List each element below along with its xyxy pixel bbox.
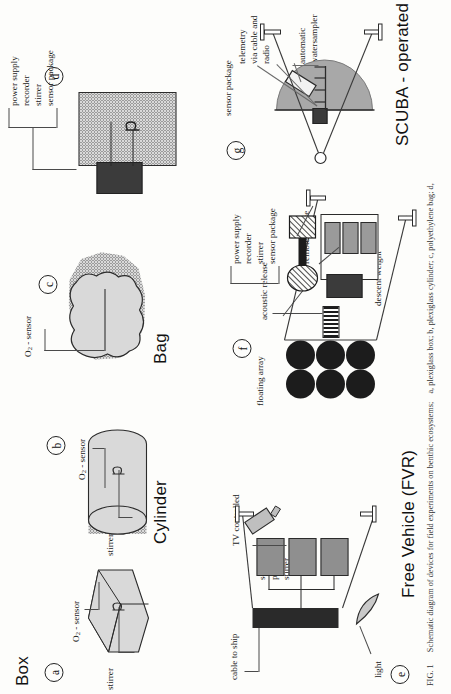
heading-free-vehicle: Free Vehicle (FVR) <box>398 450 418 598</box>
figure-caption-text1: Schematic diagram of devices for field e… <box>425 402 434 652</box>
floating-array-f <box>284 338 376 400</box>
leader-a-sensor-v <box>84 609 98 610</box>
chamber-f-1 <box>324 222 340 254</box>
light-e <box>350 582 384 628</box>
label-f-acoustic-release: acoustic release <box>258 262 269 320</box>
leader-c-sensor-h <box>44 329 45 351</box>
leader-c-sensor-v2 <box>44 350 104 351</box>
leader-b-sensor-v <box>92 448 104 449</box>
figure-canvas: Box a stirrer O2 - sensor Cylinder b sti… <box>0 0 451 694</box>
panel-tag-a: a <box>44 663 63 682</box>
figure-caption-text2: a, plexiglass box; b, plexiglass cylinde… <box>425 183 434 393</box>
label-a-stirrer: stirrer <box>104 668 115 690</box>
instrument-block-d <box>96 162 142 194</box>
chamber-e-1 <box>256 538 284 576</box>
leader-f-bracket-bot <box>278 266 279 284</box>
leader-b-sensor-h <box>104 448 105 488</box>
stirrer-glyph-d <box>122 114 144 136</box>
leader-d-bracket-top <box>8 108 9 128</box>
label-f-power-supply: power supply <box>230 214 241 264</box>
tv-camera-e <box>240 490 284 534</box>
panel-tag-b: b <box>46 436 65 455</box>
stirrer-glyph-a <box>110 594 128 614</box>
manifold-e-feed <box>300 590 301 608</box>
heading-bag: Bag <box>150 333 170 364</box>
figure-caption-line1: FIG. 1 Schematic diagram of devices for … <box>424 183 436 686</box>
label-a-o2-sensor: O2 - sensor <box>70 601 81 642</box>
leader-b-stirrer-h <box>118 504 119 518</box>
label-d-recorder: recorder <box>20 75 31 106</box>
leader-a-stirrer-v <box>118 652 134 653</box>
chamber-f-3 <box>360 222 376 254</box>
leader-e-sensor <box>252 545 286 546</box>
panel-tag-e: e <box>390 665 409 684</box>
heading-cylinder: Cylinder <box>150 480 170 544</box>
label-f-stirrer: stirrer <box>254 242 265 264</box>
leader-b-stirrer-v <box>118 517 132 518</box>
leader-d-stem <box>32 128 33 170</box>
chamber-e-3 <box>320 538 348 576</box>
chamber-f-2 <box>342 222 358 254</box>
label-e-cable-to-ship: cable to ship <box>228 634 239 680</box>
label-e-light: light <box>372 661 383 678</box>
label-g-sensor-package: sensor package <box>222 60 233 116</box>
figure-number: FIG. 1 <box>425 664 434 686</box>
panel-tag-c: c <box>38 275 57 294</box>
leader-d-bracket-bot <box>56 108 57 128</box>
manifold-e-h2 <box>300 576 301 590</box>
diagram-cylinder-b <box>84 426 150 534</box>
leader-a-sensor-h <box>98 582 99 610</box>
stirrer-glyph-b <box>110 458 128 478</box>
label-d-power-supply: power supply <box>8 56 19 106</box>
label-c-o2-sensor: O2 - sensor <box>22 316 33 357</box>
leader-f-bracket-v <box>230 283 278 284</box>
power-block-f <box>326 274 362 298</box>
panel-tag-f: f <box>232 339 251 358</box>
label-d-sensor-package: sensor package <box>44 50 55 106</box>
label-f-recorder: recorder <box>242 233 253 264</box>
frame-g <box>252 14 400 164</box>
label-g-telemetry: telemetry <box>236 29 247 64</box>
leader-f-bracket-top <box>230 266 231 284</box>
manifold-e-h3 <box>333 576 334 590</box>
heading-box: Box <box>12 656 32 686</box>
sensor-probe-c <box>104 289 105 351</box>
label-f-floating-array: floating array <box>254 356 265 406</box>
label-b-stirrer: stirrer <box>104 534 115 556</box>
chamber-e-2 <box>288 538 316 576</box>
panel-tag-g: g <box>226 141 245 160</box>
leader-e-cable-v <box>244 671 258 672</box>
leader-d-stem-v <box>32 169 76 170</box>
label-d-stirrer: stirrer <box>32 84 43 106</box>
leader-e-cable <box>258 628 259 672</box>
leader-a-stirrer-h <box>118 637 119 653</box>
probe-d-1 <box>110 122 111 166</box>
manifold-e-h1 <box>268 576 269 590</box>
label-f-sensor-package: sensor package <box>266 208 277 264</box>
diagram-bag-c <box>64 250 148 364</box>
